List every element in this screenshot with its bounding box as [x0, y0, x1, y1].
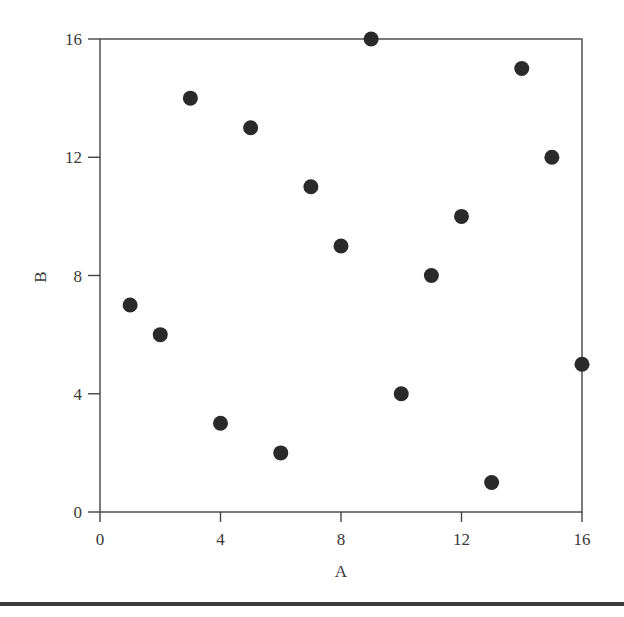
data-point	[575, 357, 590, 372]
data-point	[303, 179, 318, 194]
y-tick-label: 0	[74, 503, 83, 522]
data-point	[243, 120, 258, 135]
data-point	[484, 475, 499, 490]
x-axis-label: A	[335, 562, 348, 581]
x-tick-label: 0	[96, 530, 105, 549]
y-tick-label: 4	[74, 385, 83, 404]
y-tick-label: 8	[74, 267, 83, 286]
plot-frame	[100, 39, 582, 512]
data-point	[544, 150, 559, 165]
x-tick-label: 8	[337, 530, 346, 549]
y-tick-label: 12	[65, 148, 82, 167]
data-point	[153, 327, 168, 342]
scatter-chart: 0481216 0481216 A B	[0, 0, 624, 617]
data-point	[273, 445, 288, 460]
data-points	[123, 32, 590, 490]
data-point	[213, 416, 228, 431]
data-point	[123, 298, 138, 313]
bottom-rule	[0, 602, 624, 606]
x-tick-label: 12	[453, 530, 470, 549]
y-tick-label: 16	[65, 30, 82, 49]
data-point	[394, 386, 409, 401]
data-point	[334, 238, 349, 253]
y-axis-label: B	[31, 271, 50, 282]
x-tick-label: 4	[216, 530, 225, 549]
data-point	[424, 268, 439, 283]
data-point	[514, 61, 529, 76]
data-point	[183, 91, 198, 106]
data-point	[364, 32, 379, 47]
x-tick-label: 16	[574, 530, 591, 549]
data-point	[454, 209, 469, 224]
x-axis-ticks: 0481216	[96, 512, 591, 549]
y-axis-ticks: 0481216	[65, 30, 100, 522]
